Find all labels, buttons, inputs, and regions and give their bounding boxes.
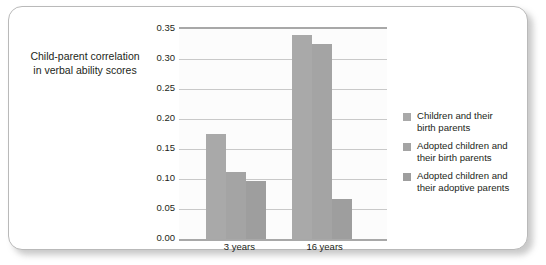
legend-item-label: Adopted children andtheir birth parents — [417, 140, 508, 163]
legend-swatch-icon — [403, 173, 411, 181]
legend-label-line: Adopted children and — [417, 140, 508, 152]
legend-item-label: Adopted children andtheir adoptive paren… — [417, 170, 509, 193]
legend-item: Adopted children andtheir birth parents — [403, 140, 535, 163]
bar — [292, 35, 312, 239]
legend-label-line: birth parents — [417, 122, 493, 134]
legend-label-line: Adopted children and — [417, 170, 509, 182]
bar — [332, 199, 352, 239]
legend-item: Children and theirbirth parents — [403, 110, 535, 133]
bar — [226, 172, 246, 239]
figure-frame: Child-parent correlation in verbal abili… — [8, 6, 528, 250]
legend-label-line: their adoptive parents — [417, 182, 509, 194]
y-axis-tick-label: 0.35 — [141, 22, 175, 33]
y-axis-title-line-2: in verbal ability scores — [19, 63, 151, 77]
legend-swatch-icon — [403, 113, 411, 121]
legend-swatch-icon — [403, 143, 411, 151]
legend-item: Adopted children andtheir adoptive paren… — [403, 170, 535, 193]
y-axis-tick-label: 0.05 — [141, 202, 175, 213]
legend-item-label: Children and theirbirth parents — [417, 110, 493, 133]
x-axis-tick-label-1: 16 years — [306, 241, 342, 252]
y-axis-tick-label: 0.20 — [141, 112, 175, 123]
y-axis-tick-label: 0.00 — [141, 232, 175, 243]
bar — [206, 134, 226, 239]
y-axis-tick-label: 0.15 — [141, 142, 175, 153]
y-axis-tick-label: 0.10 — [141, 172, 175, 183]
y-axis-title: Child-parent correlation in verbal abili… — [19, 49, 151, 77]
plot-area — [179, 27, 387, 241]
bar — [246, 181, 266, 239]
chart-legend: Children and theirbirth parentsAdopted c… — [403, 110, 535, 201]
bar-group — [292, 29, 358, 239]
y-axis-title-line-1: Child-parent correlation — [19, 49, 151, 63]
bar-group — [206, 29, 272, 239]
legend-label-line: their birth parents — [417, 152, 508, 164]
x-axis-tick-label-0: 3 years — [224, 241, 255, 252]
y-axis-tick-label: 0.25 — [141, 82, 175, 93]
y-axis-tick-label: 0.30 — [141, 52, 175, 63]
legend-label-line: Children and their — [417, 110, 493, 122]
bar — [312, 44, 332, 239]
y-axis-tick-labels: 0.000.050.100.150.200.250.300.35 — [139, 27, 175, 237]
